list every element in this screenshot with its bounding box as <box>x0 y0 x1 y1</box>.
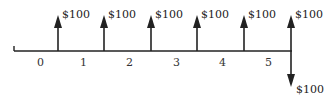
inflow-arrow-6 <box>287 15 295 51</box>
inflow-label: $100 <box>108 8 136 21</box>
inflow-arrow-3 <box>147 15 155 51</box>
arrow-up-icon <box>240 15 248 28</box>
period-label: 4 <box>219 56 226 69</box>
inflow-label: $100 <box>62 8 90 21</box>
inflow-label: $100 <box>248 8 276 21</box>
inflow-arrow-5 <box>240 15 248 51</box>
arrow-up-icon <box>193 15 201 28</box>
outflow-label: $100 <box>296 83 324 96</box>
inflow-label: $100 <box>155 8 183 21</box>
period-label: 5 <box>265 56 272 69</box>
period-label: 2 <box>126 56 133 69</box>
inflow-arrow-1 <box>54 15 62 51</box>
inflow-arrow-4 <box>193 15 201 51</box>
cash-flow-diagram: 0 1 2 3 4 5 $100 $100 $100 $100 $100 $10… <box>0 0 330 102</box>
period-label: 3 <box>173 56 180 69</box>
outflow-arrow-1 <box>287 51 295 87</box>
inflow-label: $100 <box>295 8 323 21</box>
period-label: 1 <box>80 56 87 69</box>
arrow-up-icon <box>147 15 155 28</box>
inflow-arrow-2 <box>100 15 108 51</box>
arrow-down-icon <box>287 74 295 87</box>
inflow-label: $100 <box>201 8 229 21</box>
arrow-up-icon <box>287 15 295 28</box>
period-label: 0 <box>37 56 44 69</box>
arrow-up-icon <box>54 15 62 28</box>
arrow-up-icon <box>100 15 108 28</box>
